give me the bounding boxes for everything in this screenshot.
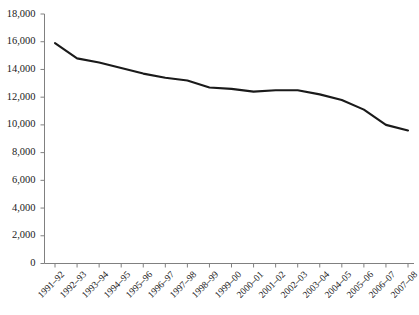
line-chart: 02,0004,0006,0008,00010,00012,00014,0001… — [0, 0, 419, 315]
y-axis-tick-label: 4,000 — [0, 203, 36, 214]
y-axis-tick-label: 6,000 — [0, 175, 36, 186]
plot-area — [0, 0, 419, 315]
y-axis-tick-label: 16,000 — [0, 36, 36, 47]
y-axis-ticks — [41, 14, 45, 264]
y-axis-tick-label: 10,000 — [0, 119, 36, 130]
y-axis-tick-label: 18,000 — [0, 9, 36, 20]
data-series-group — [55, 43, 408, 130]
y-axis-tick-label: 14,000 — [0, 64, 36, 75]
y-axis-tick-label: 0 — [0, 258, 36, 269]
series-line — [55, 43, 408, 130]
y-axis-tick-label: 12,000 — [0, 92, 36, 103]
x-axis-ticks — [55, 264, 408, 268]
y-axis-tick-label: 8,000 — [0, 147, 36, 158]
y-axis — [41, 14, 45, 264]
y-axis-tick-label: 2,000 — [0, 230, 36, 241]
x-axis — [45, 264, 415, 268]
